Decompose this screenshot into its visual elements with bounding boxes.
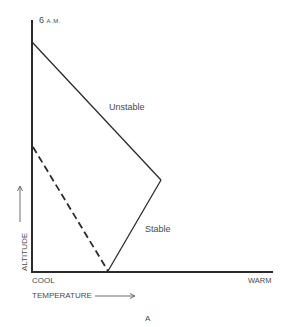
panel-label: A [145,314,150,323]
stable-label: Stable [145,224,171,234]
x-min-label: COOL [32,276,55,285]
x-axis-title: TEMPERATURE [32,291,92,300]
time-label: 6 A.M. [39,15,61,25]
unstable-label: Unstable [109,102,145,112]
y-axis-title: ALTITUDE [20,233,29,271]
dashed-profile-line [33,147,108,271]
x-max-label: WARM [248,276,271,285]
temperature-arrow-icon [95,294,135,299]
altitude-arrow-icon [18,186,23,222]
